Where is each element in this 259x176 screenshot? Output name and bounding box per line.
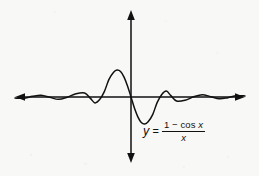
equation-lhs: y — [143, 125, 149, 138]
y-axis-top-arrowhead — [127, 10, 135, 20]
equation-label: y = 1 − cos x x — [143, 120, 205, 142]
numerator-cos: cos — [180, 119, 195, 130]
y-axis-bottom-arrowhead — [127, 153, 135, 163]
numerator-variable-x: x — [198, 119, 203, 130]
equation-fraction: 1 − cos x x — [162, 120, 205, 142]
equation-numerator: 1 − cos x — [162, 120, 205, 131]
equation-denominator: x — [179, 132, 188, 143]
graph-canvas — [0, 0, 259, 176]
math-figure: y = 1 − cos x x — [0, 0, 259, 176]
x-axis-right-arrowhead — [235, 93, 245, 101]
equation-equals-sign: = — [152, 126, 158, 137]
x-axis-left-arrowhead — [15, 93, 25, 101]
